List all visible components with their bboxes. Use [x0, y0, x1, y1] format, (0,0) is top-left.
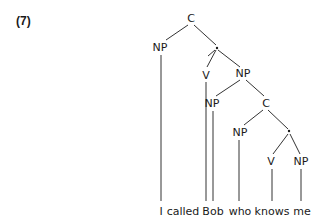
- node-bar-vp: [216, 47, 218, 49]
- node-c-root: C: [187, 12, 195, 25]
- node-bar-vp2: [288, 130, 290, 132]
- word-bob: Bob: [202, 205, 223, 218]
- tree-nodes: C NP V NP NP C NP V NP: [153, 12, 309, 168]
- word-called: called: [167, 205, 200, 218]
- tree-edges: [161, 25, 301, 201]
- syntax-tree: C NP V NP NP C NP V NP I called Bob who …: [0, 0, 329, 224]
- node-np-me: NP: [294, 155, 309, 168]
- sentence-words: I called Bob who knows me: [159, 205, 311, 218]
- node-np-bob: NP: [205, 97, 220, 110]
- node-v-knows: V: [267, 155, 275, 168]
- word-i: I: [159, 205, 162, 218]
- word-knows: knows: [255, 205, 290, 218]
- word-me: me: [293, 205, 311, 218]
- node-np-object: NP: [236, 67, 251, 80]
- node-v-called: V: [202, 69, 210, 82]
- node-np-subject: NP: [153, 41, 168, 54]
- node-np-who: NP: [233, 126, 248, 139]
- node-c-relative: C: [262, 97, 270, 110]
- word-who: who: [229, 205, 252, 218]
